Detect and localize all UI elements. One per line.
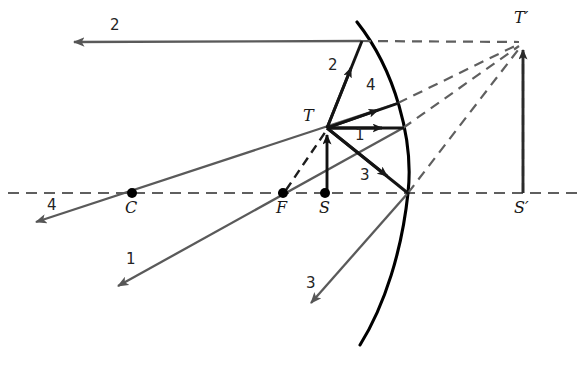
ray2-incident-label: 2 — [328, 58, 338, 73]
ray-diagram-figure: 2 2 4 1 3 4 1 3 C F S T S′ T′ — [0, 0, 588, 369]
point-label-t-prime: T′ — [514, 10, 528, 26]
point-label-f: F — [276, 200, 287, 216]
point-label-c: C — [125, 200, 137, 216]
virtual-from-ray4 — [398, 44, 519, 103]
ray1-reflected-label: 1 — [126, 252, 136, 267]
ray3-incident-label: 3 — [360, 168, 370, 183]
ray4-reflected-label: 4 — [47, 198, 57, 213]
virtual-from-ray2 — [361, 41, 519, 42]
point-label-s: S — [319, 200, 330, 216]
ray2-reflected-label: 2 — [110, 18, 120, 33]
virtual-from-ray1 — [403, 46, 519, 128]
ray4-incident-label: 4 — [366, 78, 376, 93]
point-dot-f — [278, 188, 288, 198]
diagram-canvas — [0, 0, 588, 369]
ray1-incident-label: 1 — [355, 128, 365, 143]
point-dot-c — [127, 188, 137, 198]
ray-1-reflected — [118, 128, 403, 286]
incident-ray-arrowheads — [327, 68, 387, 176]
reflected-rays — [36, 41, 408, 303]
ray-2-reflected — [74, 41, 361, 42]
ray3-reflected-label: 3 — [306, 276, 316, 291]
point-label-t: T — [303, 108, 314, 124]
point-label-s-prime: S′ — [514, 200, 529, 216]
point-dot-s — [320, 188, 330, 198]
